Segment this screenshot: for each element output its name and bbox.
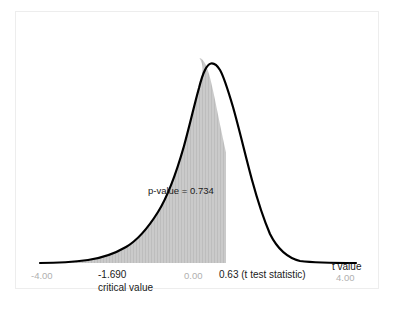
chart-frame: p-value = 0.734 -4.00 -1.690 critical va… <box>15 11 379 289</box>
x-tick-label-right: 4.00 <box>336 272 355 283</box>
critical-value-caption: critical value <box>98 282 153 293</box>
critical-value-number: -1.690 <box>98 269 126 280</box>
test-statistic-label: 0.63 (t test statistic) <box>219 269 306 280</box>
x-tick-label-center: 0.00 <box>184 270 203 281</box>
t-distribution-plot <box>16 12 378 288</box>
pvalue-annotation: p-value = 0.734 <box>148 185 214 196</box>
x-tick-label-left: -4.00 <box>31 270 53 281</box>
x-axis-title: t value <box>332 261 361 272</box>
shaded-pvalue-region <box>40 58 240 263</box>
